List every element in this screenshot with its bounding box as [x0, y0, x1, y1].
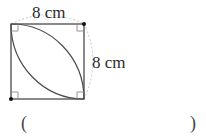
- right-side-label: 8 cm: [92, 54, 126, 71]
- answer-blank[interactable]: [34, 114, 184, 134]
- answer-open-paren: (: [21, 114, 27, 132]
- arc-centered-bottom-left: [11, 24, 84, 99]
- top-side-label: 8 cm: [32, 4, 66, 21]
- right-angle-mark-bottom-right: [77, 92, 84, 99]
- square: [11, 24, 84, 99]
- answer-close-paren: ): [190, 114, 196, 132]
- right-angle-mark-top-left: [11, 24, 18, 31]
- center-dot-top-right: [82, 22, 86, 26]
- arc-centered-top-right: [11, 24, 84, 99]
- center-dot-bottom-left: [9, 97, 13, 101]
